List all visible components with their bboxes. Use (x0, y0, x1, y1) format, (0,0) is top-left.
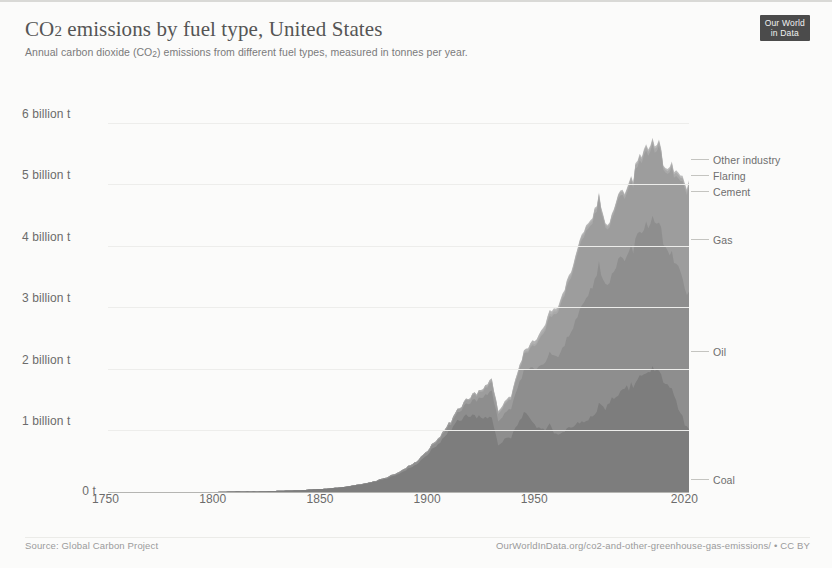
series-label-leader-line (691, 159, 709, 160)
x-tick-label: 2020 (671, 492, 698, 506)
license-url[interactable]: OurWorldInData.org/co2-and-other-greenho… (496, 540, 810, 551)
y-tick-label: 5 billion t (22, 168, 108, 182)
x-tick-label: 1800 (199, 492, 226, 506)
series-label-other-industry[interactable]: Other industry (713, 154, 780, 166)
y-tick-label: 1 billion t (22, 414, 108, 428)
chart-subtitle: Annual carbon dioxide (CO2) emissions fr… (25, 46, 807, 60)
series-label-leader-line (691, 351, 709, 352)
chart-header: CO2 emissions by fuel type, United State… (25, 18, 807, 60)
gridline (108, 184, 689, 185)
gridline (108, 430, 689, 431)
gridline (108, 123, 689, 124)
title-subscript-2: 2 (54, 23, 62, 39)
series-label-flaring[interactable]: Flaring (713, 170, 746, 182)
y-tick-label: 4 billion t (22, 230, 108, 244)
owid-logo-line2: in Data (765, 28, 805, 38)
series-label-oil[interactable]: Oil (713, 346, 726, 358)
chart-card: CO2 emissions by fuel type, United State… (0, 0, 832, 568)
series-label-leader-line (691, 479, 709, 480)
title-rest: emissions by fuel type, United States (62, 17, 383, 41)
title-co: CO (25, 17, 54, 41)
series-label-leader-line (691, 191, 709, 192)
x-axis-line (108, 492, 689, 493)
y-tick-label: 2 billion t (22, 353, 108, 367)
x-tick-label: 1850 (306, 492, 333, 506)
gridline (108, 307, 689, 308)
gridline (108, 246, 689, 247)
x-tick-label: 1750 (92, 492, 119, 506)
series-label-gas[interactable]: Gas (713, 234, 733, 246)
stacked-area-chart[interactable] (0, 74, 832, 504)
subtitle-part-a: Annual carbon dioxide (CO (25, 46, 152, 58)
owid-logo[interactable]: Our World in Data (760, 15, 810, 41)
source-note: Source: Global Carbon Project (25, 540, 158, 551)
y-tick-label: 6 billion t (22, 107, 108, 121)
x-tick-label: 1950 (521, 492, 548, 506)
footer-divider (25, 537, 810, 538)
owid-logo-line1: Our World (765, 18, 805, 28)
series-label-cement[interactable]: Cement (713, 186, 750, 198)
page-title: CO2 emissions by fuel type, United State… (25, 18, 807, 41)
series-label-leader-line (691, 175, 709, 176)
series-label-leader-line (691, 239, 709, 240)
y-tick-label: 3 billion t (22, 291, 108, 305)
plot-area: 0 t1 billion t2 billion t3 billion t4 bi… (0, 74, 832, 504)
series-label-coal[interactable]: Coal (713, 474, 735, 486)
chart-footer: Source: Global Carbon Project OurWorldIn… (0, 540, 832, 558)
subtitle-part-b: ) emissions from different fuel types, m… (157, 46, 468, 58)
gridline (108, 369, 689, 370)
y-tick-label: 0 t (20, 484, 96, 498)
x-tick-label: 1900 (414, 492, 441, 506)
